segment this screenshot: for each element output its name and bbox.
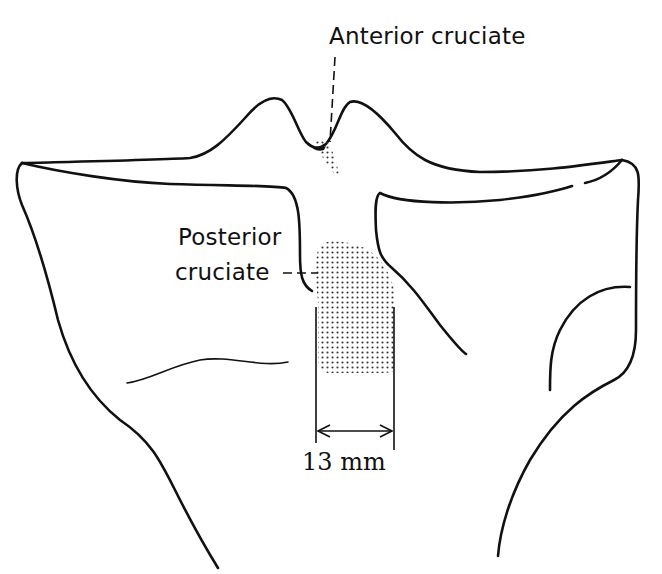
posterior-cruciate-label-line2: cruciate <box>175 258 270 286</box>
anterior-cruciate-insertion <box>313 140 339 175</box>
left-plateau-contour-line <box>127 359 288 383</box>
tibial-plateau-diagram <box>0 0 662 574</box>
posterior-cruciate-label-line1: Posterior <box>178 223 281 251</box>
anterior-cruciate-label: Anterior cruciate <box>329 22 526 50</box>
right-tibia-border <box>498 160 639 556</box>
plateau-outer-contour <box>22 98 622 172</box>
right-plateau-inner-rim <box>380 186 572 202</box>
dimension-label: 13 mm <box>302 448 386 476</box>
fibular-facet-curve <box>550 287 630 390</box>
